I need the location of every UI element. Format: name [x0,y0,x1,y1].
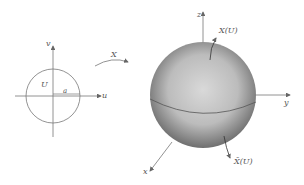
x-axis-label: x [143,168,148,176]
region-label: U [41,81,48,89]
upper-image-label: X(U) [219,27,238,35]
x-axis [150,142,172,171]
parameter-plane [15,46,101,137]
map-arrow [95,60,128,66]
y-axis-label: y [284,99,289,107]
z-axis-label: z [197,11,201,19]
map-label: X [111,51,117,59]
diagram-canvas [0,0,304,185]
sphere [150,42,256,148]
u-axis-label: u [102,92,107,100]
sphere-figure [150,12,290,171]
radius-label: a [63,88,67,95]
lower-image-label: X̄(U) [234,158,253,166]
v-axis-label: v [46,40,51,48]
